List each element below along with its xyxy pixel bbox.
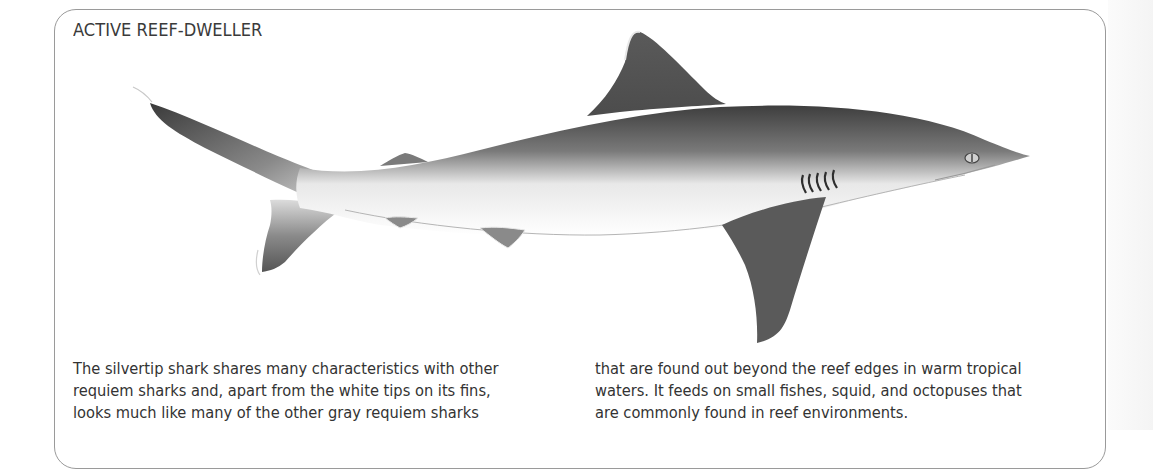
body-text-line: waters. It feeds on small fishes, squid,… (595, 380, 1071, 402)
body-text-line: are commonly found in reef environments. (595, 402, 1071, 424)
pectoral-fin (722, 197, 826, 343)
shark-body (296, 106, 1030, 236)
dorsal-fin (587, 32, 726, 116)
body-text-line: The silvertip shark shares many characte… (73, 358, 549, 380)
body-text-right-column: that are found out beyond the reef edges… (595, 358, 1071, 424)
body-text-line: looks much like many of the other gray r… (73, 402, 549, 424)
body-text-line: that are found out beyond the reef edges… (595, 358, 1071, 380)
pelvic-fin (480, 227, 525, 248)
shark-illustration (0, 0, 1153, 360)
body-text-line: requiem sharks and, apart from the white… (73, 380, 549, 402)
shark-eye (965, 153, 979, 163)
body-text-left-column: The silvertip shark shares many characte… (73, 358, 549, 424)
